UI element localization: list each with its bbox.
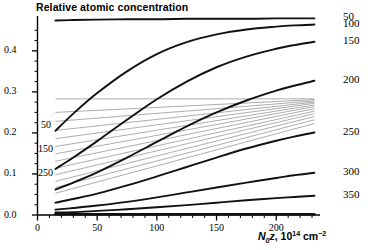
series-label-250: 250: [343, 125, 360, 137]
series-curve-300: [55, 173, 314, 210]
series-curve-350: [55, 196, 314, 213]
thin-curve-t5: [55, 103, 314, 138]
thin-curve-t9: [55, 111, 314, 168]
x-tick-label-50: 50: [92, 222, 102, 233]
series-label-100: 100: [343, 17, 360, 29]
x-tick-label-0: 0: [35, 222, 40, 233]
y-tick-label-0.4: 0.4: [4, 44, 17, 55]
inner-series-label-250: 250: [38, 167, 53, 178]
inner-series-label-50: 50: [41, 119, 51, 130]
series-curve-100: [55, 25, 314, 131]
x-tick-label-150: 150: [209, 222, 224, 233]
x-axis-label: N0z, 1014 cm−2: [258, 229, 326, 244]
y-tick-label-0.2: 0.2: [4, 126, 17, 137]
series-curve-150: [55, 42, 314, 169]
chart-figure: Relative atomic concentration 0.00.10.20…: [0, 0, 379, 250]
inner-series-label-150: 150: [38, 143, 53, 154]
x-tick-label-100: 100: [149, 222, 164, 233]
y-tick-label-0.0: 0.0: [4, 209, 17, 220]
series-curve-50: [55, 18, 314, 20]
thin-curve-t13: [55, 123, 314, 193]
series-label-200: 200: [343, 73, 360, 85]
plot-canvas: [0, 0, 379, 250]
series-label-350: 350: [343, 188, 360, 200]
y-tick-label-0.3: 0.3: [4, 85, 17, 96]
y-tick-label-0.1: 0.1: [4, 167, 17, 178]
series-label-150: 150: [343, 34, 360, 46]
series-label-300: 300: [343, 165, 360, 177]
